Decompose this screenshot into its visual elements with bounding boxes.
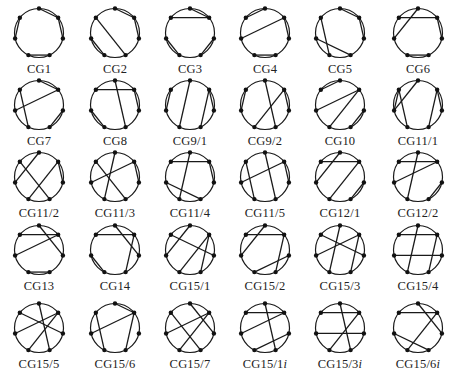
node-dot xyxy=(13,331,17,335)
node-dot xyxy=(392,253,396,257)
outer-circle xyxy=(316,304,365,353)
node-dot xyxy=(440,36,444,40)
node-dot xyxy=(327,53,331,57)
chord-diagram-graphic xyxy=(152,222,228,282)
chord-diagram: CG15/3i xyxy=(302,300,378,370)
node-dot xyxy=(212,180,216,184)
diagram-label: CG11/3 xyxy=(77,206,153,221)
chord-diagram: CG15/5 xyxy=(1,300,77,370)
node-dot xyxy=(426,348,430,352)
diagram-label: CG12/1 xyxy=(302,206,378,221)
outer-circle xyxy=(394,153,443,202)
chord-line xyxy=(254,255,289,272)
node-dot xyxy=(164,180,168,184)
chord-line xyxy=(316,153,340,183)
chord-diagram: CG11/3 xyxy=(77,149,153,223)
node-dot xyxy=(338,150,342,154)
chord-diagram-graphic xyxy=(1,149,77,209)
node-dot xyxy=(188,150,192,154)
node-dot xyxy=(426,270,430,274)
node-dot xyxy=(177,53,181,57)
node-dot xyxy=(244,311,248,315)
node-dot xyxy=(61,253,65,257)
node-dot xyxy=(392,180,396,184)
diagram-label: CG3 xyxy=(152,62,228,77)
node-dot xyxy=(169,233,173,237)
chord-line xyxy=(39,226,63,256)
node-dot xyxy=(252,348,256,352)
chord-diagram: CG3 xyxy=(152,5,228,79)
node-dot xyxy=(212,331,216,335)
chord-line xyxy=(179,81,190,128)
node-dot xyxy=(37,78,41,82)
outer-circle xyxy=(394,9,443,58)
node-dot xyxy=(26,125,30,129)
chord-line xyxy=(241,226,265,256)
chord-line xyxy=(115,81,126,128)
chord-diagram-graphic xyxy=(77,222,153,282)
node-dot xyxy=(244,88,248,92)
node-dot xyxy=(56,88,60,92)
node-dot xyxy=(212,253,216,257)
node-dot xyxy=(282,16,286,20)
node-dot xyxy=(56,16,60,20)
chord-diagram-graphic xyxy=(77,149,153,209)
chord-diagram: CG15/7 xyxy=(152,300,228,370)
chord-diagram: CG7 xyxy=(1,77,77,151)
node-dot xyxy=(392,108,396,112)
chord-line xyxy=(166,38,179,55)
chord-diagram-graphic xyxy=(1,77,77,137)
node-dot xyxy=(123,125,127,129)
chord-diagram-graphic xyxy=(77,77,153,137)
diagram-label: CG11/5 xyxy=(227,206,303,221)
chord-diagram: CG11/4 xyxy=(152,149,228,223)
node-dot xyxy=(94,88,98,92)
chord-diagram-graphic xyxy=(380,222,455,282)
diagram-label: CG9/1 xyxy=(152,134,228,149)
chord-line xyxy=(394,333,429,350)
node-dot xyxy=(426,197,430,201)
node-dot xyxy=(319,160,323,164)
outer-circle xyxy=(316,153,365,202)
diagram-label: CG6 xyxy=(380,62,455,77)
chord-line xyxy=(340,304,351,351)
node-dot xyxy=(440,253,444,257)
chord-diagram: CG11/2 xyxy=(1,149,77,223)
node-dot xyxy=(164,253,168,257)
node-dot xyxy=(357,88,361,92)
node-dot xyxy=(177,270,181,274)
node-dot xyxy=(338,6,342,10)
node-dot xyxy=(198,348,202,352)
chord-diagram-graphic xyxy=(77,300,153,360)
chord-diagram-graphic xyxy=(227,149,303,209)
node-dot xyxy=(357,233,361,237)
diagram-label: CG4 xyxy=(227,62,303,77)
node-dot xyxy=(47,53,51,57)
node-dot xyxy=(314,331,318,335)
outer-circle xyxy=(316,81,365,130)
chord-diagram: CG9/1 xyxy=(152,77,228,151)
chord-line xyxy=(179,313,209,350)
diagram-label: CG5 xyxy=(302,62,378,77)
node-dot xyxy=(198,53,202,57)
diagram-label: CG15/5 xyxy=(1,357,77,370)
node-dot xyxy=(392,331,396,335)
diagram-label-suffix: i xyxy=(359,357,363,370)
node-dot xyxy=(89,108,93,112)
node-dot xyxy=(13,36,17,40)
node-dot xyxy=(327,348,331,352)
node-dot xyxy=(169,160,173,164)
node-dot xyxy=(273,197,277,201)
chord-diagram-graphic xyxy=(302,149,378,209)
node-dot xyxy=(164,331,168,335)
node-dot xyxy=(348,348,352,352)
node-dot xyxy=(362,108,366,112)
node-dot xyxy=(188,301,192,305)
chord-diagram: CG14 xyxy=(77,222,153,296)
chord-diagram-graphic xyxy=(1,222,77,282)
node-dot xyxy=(426,53,430,57)
chord-diagram: CG10 xyxy=(302,77,378,151)
node-dot xyxy=(26,348,30,352)
node-dot xyxy=(440,331,444,335)
outer-circle xyxy=(241,9,290,58)
